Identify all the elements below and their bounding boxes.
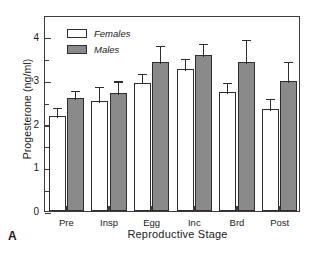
legend-swatch-females-icon <box>67 29 87 38</box>
x-tick-label: Post <box>256 217 304 228</box>
legend-label-males: Males <box>94 44 119 55</box>
x-axis-title: Reproductive Stage <box>45 228 310 240</box>
bar-post-males <box>280 81 297 211</box>
bar-insp-males <box>110 93 127 211</box>
bar-pre-females <box>49 116 66 211</box>
error-bar-stem <box>288 62 289 83</box>
error-bar-cap <box>266 99 275 100</box>
bar-egg-males <box>152 62 169 211</box>
bar-egg-females <box>134 83 151 211</box>
error-bar-cap <box>71 91 80 92</box>
y-minor-tick-mark <box>45 104 49 105</box>
legend-item-males: Males <box>67 43 130 56</box>
legend-item-females: Females <box>67 27 130 40</box>
y-tick-label: 0 <box>25 206 39 217</box>
error-bar-stem <box>203 44 204 58</box>
error-bar-cap <box>284 62 293 63</box>
error-bar-stem <box>75 91 76 101</box>
y-tick-label: 1 <box>25 162 39 173</box>
error-bar-stem <box>227 83 228 94</box>
legend: Females Males <box>67 27 130 59</box>
error-bar-cap <box>223 83 232 84</box>
error-bar-cap <box>156 46 165 47</box>
figure-panel-a: Progesterone (ng/ml) 01234PreInspEggIncB… <box>0 0 320 256</box>
error-bar-cap <box>53 108 62 109</box>
error-bar-stem <box>99 87 100 103</box>
x-tick-label: Inc <box>170 217 218 228</box>
error-bar-cap <box>138 74 147 75</box>
error-bar-cap <box>199 44 208 45</box>
error-bar-cap <box>181 59 190 60</box>
error-bar-cap <box>242 40 251 41</box>
x-tick-label: Pre <box>42 217 90 228</box>
bar-inc-males <box>195 55 212 211</box>
y-tick-mark <box>45 82 51 83</box>
y-tick-mark <box>45 38 51 39</box>
error-bar-cap <box>95 87 104 88</box>
legend-swatch-males-icon <box>67 45 87 54</box>
y-tick-label: 3 <box>25 75 39 86</box>
bar-post-females <box>262 109 279 211</box>
y-tick-label: 4 <box>25 32 39 43</box>
y-tick-mark <box>45 213 51 214</box>
error-bar-stem <box>185 59 186 71</box>
x-tick-label: Insp <box>85 217 133 228</box>
bar-insp-females <box>91 101 108 211</box>
bar-inc-females <box>177 69 194 211</box>
x-tick-label: Brd <box>213 217 261 228</box>
error-bar-stem <box>246 40 247 64</box>
panel-label: A <box>8 229 17 243</box>
error-bar-stem <box>160 46 161 63</box>
error-bar-stem <box>142 74 143 85</box>
legend-label-females: Females <box>94 28 130 39</box>
bar-pre-males <box>67 98 84 211</box>
y-tick-label: 2 <box>25 119 39 130</box>
error-bar-cap <box>114 81 123 82</box>
bar-brd-males <box>238 62 255 211</box>
plot-area: 01234PreInspEggIncBrdPost Females Males <box>44 16 300 212</box>
error-bar-stem <box>270 99 271 111</box>
x-tick-label: Egg <box>128 217 176 228</box>
error-bar-stem <box>118 81 119 94</box>
y-minor-tick-mark <box>45 60 49 61</box>
error-bar-stem <box>57 108 58 118</box>
bar-brd-females <box>219 92 236 211</box>
